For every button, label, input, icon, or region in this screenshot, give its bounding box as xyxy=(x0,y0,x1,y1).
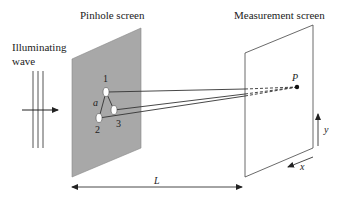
illuminating-wave-label-line2: wave xyxy=(12,56,35,67)
illuminating-wave-label-line1: Illuminating xyxy=(12,42,66,53)
measurement-screen xyxy=(245,25,313,177)
pinhole-1 xyxy=(103,88,109,97)
pinhole-screen xyxy=(72,28,141,177)
pinhole-interference-diagram xyxy=(0,0,340,200)
spacing-a-label: a xyxy=(93,98,98,108)
observation-point-p xyxy=(295,85,299,89)
pinhole-2 xyxy=(96,114,102,123)
pinhole-3-label: 3 xyxy=(116,119,121,129)
pinhole-2-label: 2 xyxy=(95,125,100,135)
measurement-screen-label: Measurement screen xyxy=(234,10,325,21)
axis-x-label: x xyxy=(300,162,304,172)
pinhole-3 xyxy=(111,106,117,115)
pinhole-1-label: 1 xyxy=(103,74,108,84)
axis-y-label: y xyxy=(324,125,328,135)
point-p-label: P xyxy=(292,73,298,83)
pinhole-screen-label: Pinhole screen xyxy=(80,10,144,21)
distance-l-label: L xyxy=(154,176,160,186)
